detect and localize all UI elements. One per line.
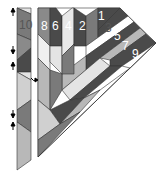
- label-10: 10: [19, 18, 33, 32]
- join-arrow-icon: [31, 78, 38, 82]
- label-4: 4: [65, 19, 72, 33]
- label-3: 3: [105, 21, 112, 35]
- label-6: 6: [52, 19, 59, 33]
- label-7: 7: [122, 39, 129, 53]
- arrow-up-icon: [11, 8, 15, 16]
- label-9: 9: [132, 47, 139, 61]
- arrow-down-icon: [11, 110, 15, 118]
- left-strip: [17, 8, 31, 170]
- arrow-up-icon: [11, 62, 15, 70]
- quilt-diagram: 10 8 6 4 2 1 3 5 7 9: [0, 0, 162, 183]
- label-1: 1: [98, 9, 105, 23]
- label-2: 2: [79, 19, 86, 33]
- arrow-up-icon: [11, 122, 15, 130]
- arrow-down-icon: [11, 46, 15, 54]
- label-8: 8: [41, 19, 48, 33]
- label-5: 5: [114, 29, 121, 43]
